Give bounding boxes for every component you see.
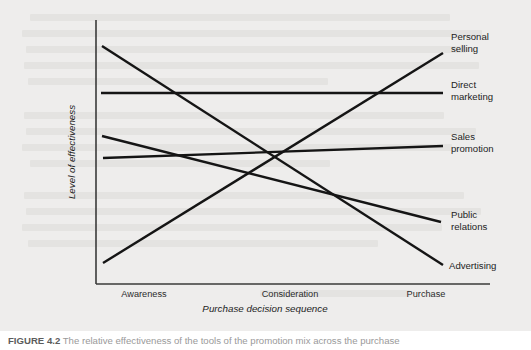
series-label-direct-marketing-line2: marketing [451, 91, 493, 102]
figure-caption: FIGURE 4.2 The relative effectiveness of… [8, 335, 523, 347]
series-label-personal-selling-line1: Personal [451, 31, 489, 42]
x-axis-title: Purchase decision sequence [202, 303, 328, 314]
chart-plot-area: Level of effectiveness Purchase decision… [0, 0, 531, 331]
series-label-sales-promotion-line2: promotion [451, 143, 494, 154]
series-label-advertising: Advertising [449, 260, 496, 271]
x-tick-label-consideration: Consideration [262, 289, 319, 299]
figure-caption-body: The relative effectiveness of the tools … [63, 335, 400, 346]
x-tick-label-awareness: Awareness [121, 289, 167, 299]
figure-caption-strip: FIGURE 4.2 The relative effectiveness of… [0, 331, 531, 350]
figure-number: FIGURE 4.2 [8, 335, 60, 346]
series-label-public-relations-line2: relations [451, 221, 487, 232]
figure-container: Level of effectiveness Purchase decision… [0, 0, 531, 350]
series-label-direct-marketing-line1: Direct [451, 79, 476, 90]
series-label-public-relations-line1: Public [451, 209, 477, 220]
x-tick-label-purchase: Purchase [407, 289, 446, 299]
y-axis-title: Level of effectiveness [66, 105, 77, 199]
chart-panel: Level of effectiveness Purchase decision… [0, 0, 531, 331]
series-label-personal-selling-line2: selling [451, 43, 478, 54]
series-label-sales-promotion-line1: Sales [451, 131, 475, 142]
